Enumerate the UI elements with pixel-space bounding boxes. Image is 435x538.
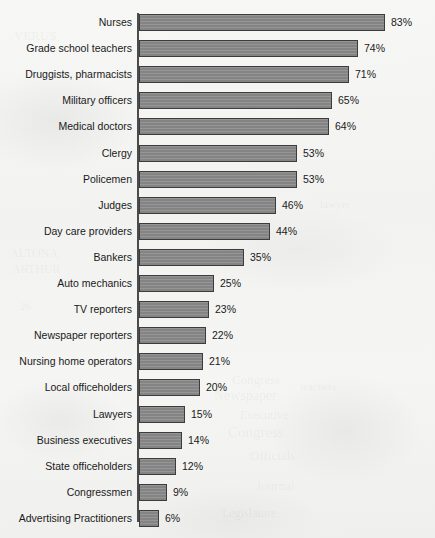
category-label: Congressmen — [67, 486, 132, 498]
category-label: Medical doctors — [58, 120, 132, 132]
bar-row: Local officeholders20% — [0, 378, 435, 404]
category-label: Advertising Practitioners — [19, 512, 132, 524]
bar — [139, 275, 214, 292]
bar — [139, 14, 385, 31]
category-label: Bankers — [93, 251, 132, 263]
bar-row: Day care providers44% — [0, 222, 435, 248]
category-label: Judges — [98, 199, 132, 211]
bar-row: Nurses83% — [0, 13, 435, 39]
bar — [139, 406, 185, 423]
bar-value-label: 53% — [303, 173, 324, 185]
bar-value-label: 23% — [215, 303, 236, 315]
bar — [139, 379, 200, 396]
bar-row: State officeholders12% — [0, 457, 435, 483]
bar-value-label: 44% — [276, 225, 297, 237]
bar-row: Advertising Practitioners6% — [0, 509, 435, 535]
bar-row: Congressmen9% — [0, 483, 435, 509]
category-label: Newspaper reporters — [34, 329, 132, 341]
bar-row: TV reporters23% — [0, 300, 435, 326]
category-label: State officeholders — [45, 460, 132, 472]
bar-row: Policemen53% — [0, 170, 435, 196]
category-label: Lawyers — [93, 408, 132, 420]
bar-row: Nursing home operators21% — [0, 352, 435, 378]
bar — [139, 249, 244, 266]
category-label: Druggists, pharmacists — [25, 68, 132, 80]
bar-value-label: 6% — [165, 512, 180, 524]
category-label: Auto mechanics — [57, 277, 132, 289]
bar-value-label: 22% — [212, 329, 233, 341]
bar-value-label: 21% — [209, 355, 230, 367]
bar-value-label: 65% — [338, 94, 359, 106]
bar — [139, 92, 332, 109]
bar — [139, 171, 297, 188]
bar-value-label: 20% — [206, 381, 227, 393]
category-label: Policemen — [83, 173, 132, 185]
bar — [139, 301, 209, 318]
bar-row: Grade school teachers74% — [0, 39, 435, 65]
category-label: Nurses — [99, 16, 132, 28]
bar-row: Medical doctors64% — [0, 117, 435, 143]
bar-value-label: 12% — [182, 460, 203, 472]
bar-value-label: 64% — [335, 120, 356, 132]
bar — [139, 145, 297, 162]
category-label: Clergy — [102, 147, 132, 159]
bar-row: Druggists, pharmacists71% — [0, 65, 435, 91]
category-label: Military officers — [62, 94, 132, 106]
bar — [139, 353, 203, 370]
bar-value-label: 15% — [191, 408, 212, 420]
bar-value-label: 25% — [220, 277, 241, 289]
bar-value-label: 71% — [355, 68, 376, 80]
bar-value-label: 74% — [364, 42, 385, 54]
bar-value-label: 35% — [250, 251, 271, 263]
bar — [139, 40, 358, 57]
category-label: Business executives — [37, 434, 132, 446]
bar-row: Military officers65% — [0, 91, 435, 117]
category-label: Day care providers — [44, 225, 132, 237]
bar-row: Bankers35% — [0, 248, 435, 274]
bar — [139, 484, 167, 501]
bar — [139, 197, 276, 214]
bar — [139, 327, 206, 344]
bar — [139, 223, 270, 240]
category-label: Grade school teachers — [26, 42, 132, 54]
bar-value-label: 53% — [303, 147, 324, 159]
horizontal-bar-chart: Nurses83%Grade school teachers74%Druggis… — [0, 0, 435, 538]
bar-row: Auto mechanics25% — [0, 274, 435, 300]
category-label: TV reporters — [74, 303, 132, 315]
bar — [139, 66, 349, 83]
bar-value-label: 9% — [173, 486, 188, 498]
bar-row: Clergy53% — [0, 144, 435, 170]
bar-row: Judges46% — [0, 196, 435, 222]
bar-row: Lawyers15% — [0, 405, 435, 431]
bar-row: Business executives14% — [0, 431, 435, 457]
bar-value-label: 83% — [391, 16, 412, 28]
bar — [139, 118, 329, 135]
bar — [139, 510, 159, 527]
bar-value-label: 14% — [188, 434, 209, 446]
category-label: Nursing home operators — [19, 355, 132, 367]
bar — [139, 432, 182, 449]
category-label: Local officeholders — [45, 381, 132, 393]
bar — [139, 458, 176, 475]
bar-row: Newspaper reporters22% — [0, 326, 435, 352]
bar-value-label: 46% — [282, 199, 303, 211]
